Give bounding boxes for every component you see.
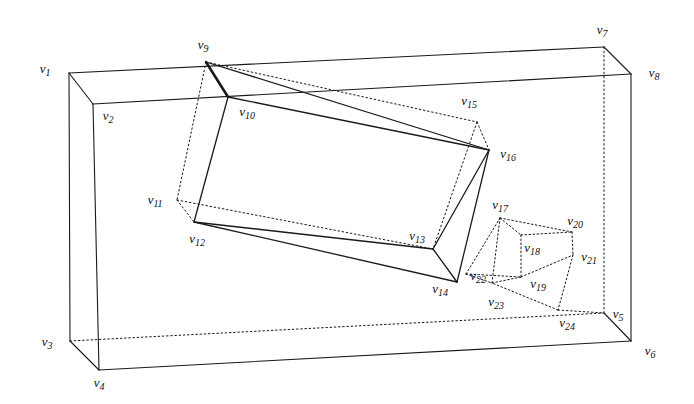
vertex-label-subscript: 15 xyxy=(467,99,477,110)
vertex-label-v8: v8 xyxy=(649,66,660,82)
edge-v1-v7 xyxy=(69,47,604,73)
edge-v15-v13 xyxy=(433,122,477,249)
edge-v10-v12 xyxy=(194,97,228,222)
vertex-label-v2: v2 xyxy=(103,109,114,125)
edge-v23-v17 xyxy=(492,218,500,283)
vertex-label-subscript: 7 xyxy=(602,28,607,39)
vertex-label-subscript: 8 xyxy=(654,71,659,82)
vertex-label-subscript: 5 xyxy=(618,312,623,323)
edge-v10-v16 xyxy=(228,97,489,150)
vertex-label-subscript: 12 xyxy=(195,237,205,248)
edge-v17-v20 xyxy=(500,218,572,232)
vertex-label-subscript: 22 xyxy=(476,274,486,285)
edge-v4-v6 xyxy=(99,341,631,370)
vertex-label-subscript: 13 xyxy=(415,234,425,245)
vertex-label-subscript: 18 xyxy=(530,246,540,257)
vertex-label-v20: v20 xyxy=(567,214,582,230)
vertex-label-subscript: 1 xyxy=(45,67,50,78)
vertex-label-v23: v23 xyxy=(488,295,503,311)
edge-v1-v3 xyxy=(69,73,70,341)
edge-v20-v21 xyxy=(572,232,573,255)
vertex-label-v4: v4 xyxy=(94,376,105,392)
wireframe-diagram xyxy=(0,0,694,404)
edge-v7-v8 xyxy=(604,47,631,74)
vertex-label-subscript: 14 xyxy=(438,287,448,298)
edge-v15-v16 xyxy=(477,122,489,150)
vertex-label-v15: v15 xyxy=(461,94,476,110)
vertex-label-v13: v13 xyxy=(409,229,424,245)
vertex-label-subscript: 4 xyxy=(99,381,104,392)
edge-v24-v5 xyxy=(558,310,604,313)
vertex-label-subscript: 16 xyxy=(506,152,516,163)
vertex-label-subscript: 10 xyxy=(245,110,255,121)
edge-v11-v12 xyxy=(177,200,194,222)
vertex-label-subscript: 23 xyxy=(494,300,504,311)
vertex-label-subscript: 21 xyxy=(587,255,597,266)
edge-v19-v23 xyxy=(492,277,521,283)
vertex-label-v16: v16 xyxy=(500,147,515,163)
edge-v2-v4 xyxy=(93,104,99,370)
vertex-label-v19: v19 xyxy=(530,277,545,293)
edge-v2-v8 xyxy=(93,74,631,104)
vertex-label-v21: v21 xyxy=(581,250,596,266)
vertex-label-v7: v7 xyxy=(597,23,608,39)
vertex-label-v22: v22 xyxy=(470,269,485,285)
cube-to-box-connector xyxy=(558,310,604,313)
vertex-label-subscript: 19 xyxy=(536,282,546,293)
inner-block-solid-edges xyxy=(194,62,489,282)
edge-v17-v18 xyxy=(500,218,521,235)
vertex-label-v12: v12 xyxy=(189,232,204,248)
vertex-label-v11: v11 xyxy=(148,193,163,209)
edge-v1-v2 xyxy=(69,73,93,104)
vertex-label-subscript: 11 xyxy=(153,198,162,209)
vertex-label-subscript: 2 xyxy=(108,114,113,125)
edge-v9-v11 xyxy=(177,62,206,200)
vertex-label-subscript: 17 xyxy=(498,203,508,214)
edge-v18-v20 xyxy=(521,232,572,235)
vertex-label-v14: v14 xyxy=(432,282,447,298)
vertex-label-subscript: 24 xyxy=(565,321,575,332)
vertex-label-subscript: 3 xyxy=(47,340,52,351)
edge-v19-v21 xyxy=(521,255,573,277)
vertex-label-v10: v10 xyxy=(239,105,254,121)
vertex-label-v18: v18 xyxy=(524,241,539,257)
vertex-label-v24: v24 xyxy=(559,316,574,332)
edge-v16-v13 xyxy=(433,150,489,249)
vertex-label-v5: v5 xyxy=(613,307,624,323)
small-cube-hidden-edges xyxy=(466,218,573,310)
vertex-label-subscript: 6 xyxy=(650,349,655,360)
vertex-label-v3: v3 xyxy=(42,335,53,351)
vertex-label-v17: v17 xyxy=(492,198,507,214)
vertex-label-subscript: 9 xyxy=(203,43,208,54)
vertex-label-v9: v9 xyxy=(198,38,209,54)
edge-v21-v24 xyxy=(558,255,573,310)
figure-canvas: v1v2v3v4v5v6v7v8v9v10v11v12v13v14v15v16v… xyxy=(0,0,694,404)
vertex-label-v6: v6 xyxy=(645,344,656,360)
edge-v3-v4 xyxy=(70,341,99,370)
edge-v3-v5 xyxy=(70,313,604,341)
vertex-label-v1: v1 xyxy=(40,62,51,78)
vertex-label-subscript: 20 xyxy=(573,219,583,230)
